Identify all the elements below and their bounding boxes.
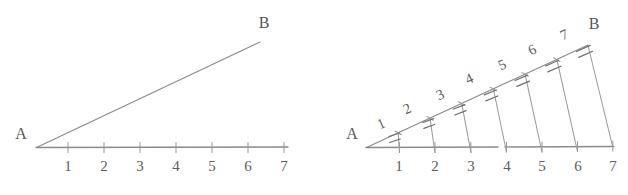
left-base-label-5: 5 <box>208 158 216 174</box>
right-base-label-3: 3 <box>467 158 475 174</box>
left-baseline <box>36 147 288 148</box>
right-baseline-cont <box>505 147 614 148</box>
left-panel: A B 1 2 3 4 5 6 7 <box>15 14 288 174</box>
left-base-label-6: 6 <box>244 158 252 174</box>
right-transversals <box>398 60 577 153</box>
transversal-4 <box>493 89 506 152</box>
right-ray-label-b: B <box>589 15 600 32</box>
right-hyp-label-1: 1 <box>374 115 387 133</box>
right-closing-segment <box>588 46 613 147</box>
right-hyp-label-6: 6 <box>525 41 538 59</box>
left-vertex-label-a: A <box>15 125 27 142</box>
right-base-label-7: 7 <box>609 158 617 174</box>
left-base-label-1: 1 <box>64 158 72 174</box>
left-ray-ab <box>37 42 261 148</box>
right-hyp-label-3: 3 <box>433 86 446 104</box>
right-ray-ab <box>367 45 589 148</box>
right-panel: A B 1 2 3 4 5 6 7 1 2 3 4 5 6 7 <box>346 15 617 174</box>
right-hyp-label-7: 7 <box>557 26 570 44</box>
figure-canvas: A B 1 2 3 4 5 6 7 <box>0 0 628 195</box>
right-base-label-1: 1 <box>395 158 403 174</box>
figure-root: A B 1 2 3 4 5 6 7 <box>0 0 628 195</box>
right-hyp-label-4: 4 <box>462 69 476 87</box>
right-base-label-5: 5 <box>538 158 546 174</box>
right-baseline-labels: 1 2 3 4 5 6 7 <box>395 158 617 174</box>
right-baseline <box>366 147 498 148</box>
right-hypotenuse-labels: 1 2 3 4 5 6 7 <box>374 26 570 133</box>
congruence-hash-marks <box>389 45 593 142</box>
right-vertex-label-a: A <box>346 125 358 142</box>
transversal-5 <box>525 74 542 152</box>
left-base-label-2: 2 <box>100 158 108 174</box>
left-base-label-7: 7 <box>280 158 288 174</box>
left-base-label-3: 3 <box>136 158 144 174</box>
left-base-label-4: 4 <box>172 158 180 174</box>
left-ray-label-b: B <box>259 14 270 31</box>
right-hyp-label-5: 5 <box>495 56 508 74</box>
right-hyp-label-2: 2 <box>400 100 413 118</box>
right-base-label-4: 4 <box>503 158 511 174</box>
left-baseline-labels: 1 2 3 4 5 6 7 <box>64 158 288 174</box>
right-base-label-6: 6 <box>574 158 582 174</box>
transversal-6 <box>557 60 578 152</box>
right-base-label-2: 2 <box>431 158 439 174</box>
